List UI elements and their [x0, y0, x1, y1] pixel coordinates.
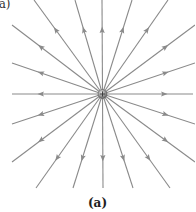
- arrowhead-icon: [162, 111, 170, 118]
- field-line: [103, 94, 134, 188]
- field-line: [102, 0, 103, 94]
- figure-caption: (a): [0, 196, 195, 210]
- field-line: [75, 0, 103, 94]
- field-line: [73, 94, 103, 188]
- arrowhead-icon: [52, 26, 60, 34]
- arrowhead-icon: [145, 154, 153, 162]
- field-line: [103, 94, 196, 124]
- field-line: [36, 94, 103, 188]
- field-line: [12, 94, 103, 162]
- arrowhead-icon: [143, 26, 151, 34]
- field-line: [103, 63, 196, 94]
- field-line: [103, 0, 169, 94]
- arrowhead-icon: [37, 111, 45, 118]
- arrowhead-icon: [37, 69, 45, 76]
- field-line: [103, 25, 196, 94]
- arrowhead-icon: [162, 69, 170, 76]
- arrowhead-icon: [119, 26, 126, 34]
- field-line: [12, 94, 103, 124]
- positive-charge: [98, 90, 107, 99]
- arrowhead-icon: [53, 154, 61, 162]
- field-line: [12, 25, 103, 94]
- arrowhead-icon: [120, 154, 127, 162]
- field-line: [103, 94, 171, 188]
- arrowhead-icon: [79, 154, 86, 162]
- field-line: [12, 63, 103, 94]
- field-line: [103, 94, 196, 162]
- arrowhead-icon: [80, 26, 87, 34]
- field-line: [103, 0, 133, 94]
- field-line-diagram: [0, 0, 195, 212]
- field-line: [103, 94, 104, 188]
